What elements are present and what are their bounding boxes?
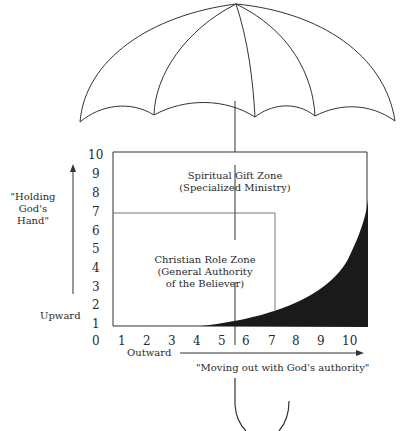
upward-label: Upward [40, 310, 81, 322]
y-tick: 0 [92, 334, 100, 348]
umbrella-rib [236, 4, 255, 117]
x-tick: 8 [292, 334, 300, 348]
x-tick: 10 [342, 334, 357, 348]
umbrella-rib [236, 4, 315, 116]
spiritual-gift-zone-subtitle: (Specialized Ministry) [160, 182, 310, 194]
umbrella-rib [154, 4, 236, 115]
x-tick: 3 [168, 334, 176, 348]
outward-arrowhead [356, 350, 364, 356]
x-tick: 5 [218, 334, 226, 348]
holding-gods-hand-label: "Holding God's Hand" [2, 191, 64, 227]
y-tick: 7 [92, 205, 100, 219]
y-tick: 2 [92, 298, 100, 312]
umbrella-handle-hook [279, 401, 289, 431]
y-tick: 8 [92, 186, 100, 200]
x-tick: 2 [143, 334, 151, 348]
umbrella-scallops [80, 102, 395, 122]
x-tick: 7 [268, 334, 276, 348]
y-tick: 10 [88, 148, 103, 162]
y-tick: 1 [92, 317, 100, 331]
christian-role-zone-subtitle: of the Believer) [130, 278, 280, 290]
x-tick: 6 [242, 334, 250, 348]
x-tick: 1 [118, 334, 126, 348]
y-tick: 9 [92, 167, 100, 181]
umbrella-handle [235, 378, 246, 431]
christian-role-zone-subtitle: (General Authority [130, 266, 280, 278]
umbrella-canopy-outline [80, 4, 395, 122]
y-tick: 3 [92, 280, 100, 294]
y-tick: 4 [92, 261, 100, 275]
x-tick: 9 [317, 334, 325, 348]
spiritual-gift-zone-title: Spiritual Gift Zone [160, 170, 310, 182]
christian-role-zone-title: Christian Role Zone [130, 254, 280, 266]
y-tick: 6 [92, 224, 100, 238]
x-tick: 4 [193, 334, 201, 348]
moving-out-label: "Moving out with God's authority" [196, 362, 369, 374]
y-tick: 5 [92, 242, 100, 256]
upward-arrowhead [70, 164, 76, 172]
outward-label: Outward [127, 347, 171, 359]
